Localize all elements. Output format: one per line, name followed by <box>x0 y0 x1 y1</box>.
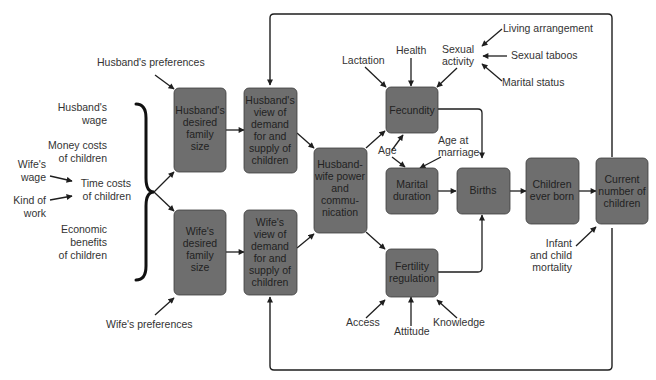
label-line: of children <box>59 152 108 164</box>
node-text: supply of <box>249 264 291 276</box>
label-line: activity <box>442 55 475 67</box>
node-text: demand <box>251 240 289 252</box>
node-text: Fertility <box>395 260 430 272</box>
node-marital-duration: Marital duration <box>386 168 438 214</box>
node-text: Wife's <box>256 216 284 228</box>
node-births: Births <box>457 168 510 214</box>
label-age: Age <box>378 144 397 156</box>
node-husband-view-of-demand: Husband's view of demand for and supply … <box>244 88 297 173</box>
node-text: children <box>252 276 289 288</box>
label-line: work <box>23 207 47 219</box>
node-text: commu- <box>321 194 359 206</box>
label-health: Health <box>396 44 427 56</box>
node-text: Marital <box>396 178 428 190</box>
label-line: Infant <box>546 237 572 249</box>
edge-brace-wife <box>154 192 174 211</box>
node-text: family <box>186 249 214 261</box>
label-line: of children <box>59 249 108 261</box>
label-line: Time costs <box>81 177 131 189</box>
node-text: desired <box>183 237 218 249</box>
node-text: Children <box>532 178 571 190</box>
label-sexual-activity: Sexual activity <box>442 43 475 67</box>
edge-husband-view-power <box>297 133 314 148</box>
edge-regulation-births <box>438 215 482 272</box>
node-text: for and <box>254 130 287 142</box>
fertility-determinants-diagram: Husband's desired family size Husband's … <box>0 0 656 380</box>
node-text: size <box>191 140 210 152</box>
node-text: family <box>186 128 214 140</box>
label-time-costs: Time costs of children <box>81 177 132 202</box>
node-fertility-regulation: Fertility regulation <box>386 249 438 297</box>
node-text: view of <box>254 228 287 240</box>
label-infant-child-mortality: Infant and child mortality <box>530 237 573 273</box>
label-wifes-preferences: Wife's preferences <box>106 318 193 330</box>
node-text: Husband's <box>245 94 294 106</box>
node-text: ever born <box>530 190 575 202</box>
label-line: Husband's <box>58 101 107 113</box>
node-text: demand <box>251 118 289 130</box>
edge-age-marriage <box>420 157 441 168</box>
edge-lactation <box>365 67 386 87</box>
label-line: Age at <box>438 134 468 146</box>
label-line: Kind of <box>13 194 46 206</box>
edge-living-arrangement <box>482 29 502 46</box>
node-text: duration <box>393 190 431 202</box>
label-line: wage <box>20 171 46 183</box>
label-marital-status: Marital status <box>502 76 564 88</box>
label-attitude: Attitude <box>394 325 430 337</box>
node-text: wife power <box>314 170 366 182</box>
label-knowledge: Knowledge <box>433 316 485 328</box>
edge-wife-view-power <box>297 234 314 248</box>
label-line: benefits <box>70 236 107 248</box>
label-sexual-taboos: Sexual taboos <box>511 49 578 61</box>
label-line: Sexual <box>442 43 474 55</box>
node-children-ever-born: Children ever born <box>526 158 579 224</box>
label-line: mortality <box>532 261 572 273</box>
label-line: wage <box>81 114 107 126</box>
label-line: Economic <box>61 223 107 235</box>
node-text: nication <box>322 206 358 218</box>
node-husband-wife-power: Husband- wife power and commu- nication <box>314 148 367 233</box>
node-text: and <box>331 182 349 194</box>
node-text: desired <box>183 116 218 128</box>
node-text: Wife's <box>186 225 214 237</box>
edge-infant-mortality <box>576 227 596 246</box>
node-text: for and <box>254 252 287 264</box>
label-money-costs: Money costs of children <box>48 139 107 164</box>
edge-husband-pref <box>155 75 174 89</box>
edge-sexual-activity <box>437 68 457 87</box>
node-text: Husband- <box>317 158 363 170</box>
label-line: marriage <box>438 146 480 158</box>
label-husbands-wage: Husband's wage <box>58 101 107 126</box>
node-text: view of <box>254 106 287 118</box>
node-text: Husband's <box>175 104 224 116</box>
node-text: number of <box>598 185 645 197</box>
label-access: Access <box>346 316 380 328</box>
node-fecundity: Fecundity <box>386 87 438 133</box>
node-wife-desired-family-size: Wife's desired family size <box>174 210 226 295</box>
edge-age-marital <box>392 157 405 167</box>
node-text: size <box>191 261 210 273</box>
label-lactation: Lactation <box>342 54 385 66</box>
edge-marital-status <box>482 64 502 81</box>
node-current-number-of-children: Current number of children <box>596 158 648 224</box>
node-text: Current <box>604 173 639 185</box>
edge-brace-husband <box>154 172 174 192</box>
node-text: children <box>252 154 289 166</box>
label-economic-benefits: Economic benefits of children <box>59 223 108 261</box>
node-text: regulation <box>389 272 435 284</box>
node-wife-view-of-demand: Wife's view of demand for and supply of … <box>244 210 297 295</box>
node-husband-desired-family-size: Husband's desired family size <box>174 88 226 172</box>
label-kind-of-work: Kind of work <box>13 194 46 219</box>
label-living-arrangement: Living arrangement <box>503 22 593 34</box>
label-age-at-marriage: Age at marriage <box>438 134 480 158</box>
label-line: Money costs <box>48 139 107 151</box>
node-text: Fecundity <box>389 104 435 116</box>
left-brace <box>136 104 154 280</box>
label-line: and child <box>530 249 572 261</box>
node-text: children <box>604 197 641 209</box>
node-text: Births <box>470 184 497 196</box>
edge-wifes-wage <box>50 176 72 181</box>
label-line: of children <box>83 190 132 202</box>
edge-kind-of-work <box>50 196 72 200</box>
